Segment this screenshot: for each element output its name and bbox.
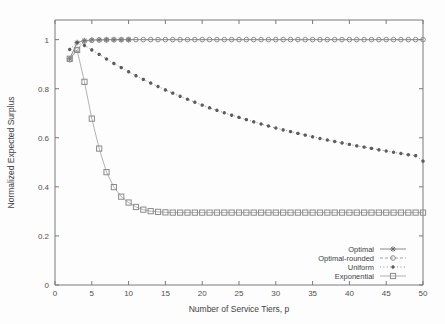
- data-point-marker: [83, 44, 86, 47]
- data-point-marker: [304, 133, 307, 136]
- data-point-marker: [326, 138, 329, 141]
- y-tick-label: 0.2: [38, 232, 50, 241]
- x-tick-label: 30: [271, 289, 280, 298]
- x-tick-label: 35: [308, 289, 317, 298]
- chart-canvas: 05101520253035404550 00.20.40.60.81 Opti…: [0, 0, 445, 324]
- y-tick-label: 0: [45, 281, 50, 290]
- x-axis-label: Number of Service Tiers, p: [189, 304, 290, 314]
- y-axis-label: Normalized Expected Surplus: [6, 97, 16, 209]
- chart-figure: 05101520253035404550 00.20.40.60.81 Opti…: [0, 0, 445, 324]
- y-tick-label: 0.6: [38, 134, 50, 143]
- x-tick-label: 25: [235, 289, 244, 298]
- data-point-marker: [186, 98, 189, 101]
- legend-label-exponential: Exponential: [335, 272, 375, 281]
- data-point-marker: [311, 135, 314, 138]
- data-point-marker: [215, 109, 218, 112]
- data-point-marker: [105, 57, 108, 60]
- data-point-marker: [230, 114, 233, 117]
- x-tick-label: 50: [419, 289, 428, 298]
- data-point-marker: [259, 122, 262, 125]
- data-point-marker: [223, 111, 226, 114]
- x-tick-label: 40: [345, 289, 354, 298]
- data-point-marker: [68, 48, 71, 51]
- data-point-marker: [193, 100, 196, 103]
- data-point-marker: [421, 159, 424, 162]
- x-tick-label: 15: [161, 289, 170, 298]
- data-point-marker: [245, 118, 248, 121]
- data-point-marker: [355, 144, 358, 147]
- y-tick-label: 0.4: [38, 183, 50, 192]
- legend-label-optimal-rounded: Optimal-rounded: [318, 254, 374, 263]
- data-point-marker: [318, 137, 321, 140]
- data-point-marker: [390, 246, 396, 252]
- y-tick-label: 0.8: [38, 85, 50, 94]
- data-point-marker: [391, 265, 394, 268]
- data-point-marker: [237, 116, 240, 119]
- x-tick-label: 0: [53, 289, 58, 298]
- x-tick-label: 10: [124, 289, 133, 298]
- y-tick-label: 1: [45, 36, 50, 45]
- data-point-marker: [201, 103, 204, 106]
- chart-background: [0, 0, 445, 324]
- data-point-marker: [208, 106, 211, 109]
- data-point-marker: [267, 124, 270, 127]
- data-point-marker: [414, 154, 417, 157]
- x-tick-label: 45: [382, 289, 391, 298]
- data-point-marker: [120, 66, 123, 69]
- data-point-marker: [296, 132, 299, 135]
- data-point-marker: [112, 62, 115, 65]
- legend-label-optimal: Optimal: [348, 245, 374, 254]
- data-point-marker: [340, 141, 343, 144]
- data-point-marker: [252, 120, 255, 123]
- data-point-marker: [362, 145, 365, 148]
- data-point-marker: [370, 147, 373, 150]
- data-point-marker: [274, 126, 277, 129]
- x-tick-label: 5: [90, 289, 95, 298]
- x-tick-label: 20: [198, 289, 207, 298]
- data-point-marker: [90, 48, 93, 51]
- legend-label-uniform: Uniform: [348, 263, 374, 272]
